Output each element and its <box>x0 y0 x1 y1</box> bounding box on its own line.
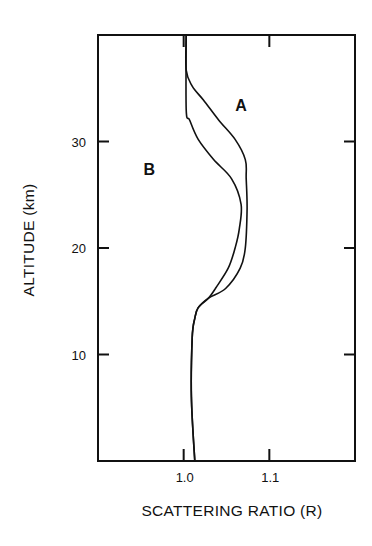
plot-frame <box>98 35 355 461</box>
chart: 1.0 1.1 10 20 30 SCATTERING RATIO (R) AL… <box>0 0 372 546</box>
x-tick-label-1-1: 1.1 <box>261 470 279 485</box>
x-tick-label-1-0: 1.0 <box>176 470 194 485</box>
y-axis-title: ALTITUDE (km) <box>20 184 37 297</box>
y-tick-label-10: 10 <box>72 348 86 363</box>
x-axis-title: SCATTERING RATIO (R) <box>141 502 322 519</box>
axis-ticks <box>98 35 355 461</box>
y-tick-label-30: 30 <box>72 135 86 150</box>
series-curve-b <box>186 35 241 461</box>
series-label-a: A <box>235 97 247 114</box>
series-label-b: B <box>144 161 156 178</box>
y-tick-label-20: 20 <box>72 241 86 256</box>
